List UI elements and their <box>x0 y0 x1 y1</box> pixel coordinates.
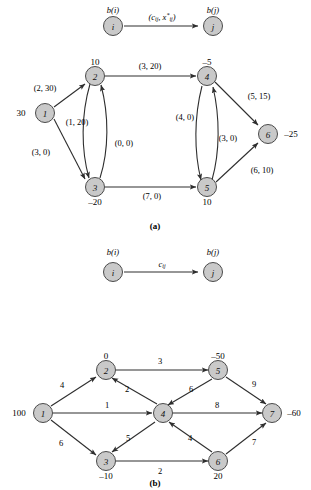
edge-a-5-4 <box>212 87 218 180</box>
node-b-3-label: 3 <box>103 457 109 467</box>
node-b-6-label: 6 <box>216 457 221 467</box>
edge-b-6-7 <box>226 423 266 454</box>
node-a-3-label: 3 <box>92 183 98 193</box>
edge-a-4-6 <box>215 82 258 125</box>
legend-target-node-label-a: j <box>211 22 215 32</box>
panel-a-legend: b(i) i (cij, x*ij) b(j) j <box>104 5 223 36</box>
node-a-4-label: 4 <box>205 72 210 82</box>
legend-edge-label-a: (cij, x*ij) <box>148 12 175 22</box>
edge-label-a-3-5: (7, 0) <box>143 191 162 201</box>
edge-label-b-4-7: 8 <box>215 400 219 410</box>
panel-a-nodes: 30 1 10 2 3 –20 –5 4 5 10 6 –25 <box>17 57 299 207</box>
panel-b-legend: b(i) i cij b(j) j <box>104 247 223 282</box>
edge-b-5-7 <box>226 377 266 404</box>
supply-b-node-5: –50 <box>210 351 225 361</box>
edge-b-4-3 <box>112 422 155 452</box>
edge-label-a-4-5: (4, 0) <box>176 112 195 122</box>
edge-label-a-4-6: (5, 15) <box>248 91 271 101</box>
edge-label-a-2-3: (1, 20) <box>66 117 89 127</box>
edge-label-a-2-4: (3, 20) <box>139 61 162 71</box>
supply-a-node-4: –5 <box>202 57 213 67</box>
edge-a-1-2 <box>54 84 85 107</box>
edge-label-a-5-6: (6, 10) <box>251 165 274 175</box>
edge-label-b-1-3: 6 <box>59 438 63 448</box>
edge-label-b-1-2: 4 <box>60 380 65 390</box>
legend-edge-label-b: cij <box>158 259 165 269</box>
panel-a-edges <box>54 76 258 187</box>
edge-label-b-5-4: 6 <box>189 384 193 394</box>
legend-target-node-label-b: j <box>211 268 215 278</box>
supply-b-node-3: –10 <box>98 471 113 481</box>
panel-a-edge-labels: (2, 30) (3, 0) (1, 20) (0, 0) (3, 20) (7… <box>32 61 274 201</box>
network-flow-figure: b(i) i (cij, x*ij) b(j) j (2, 30) <box>0 0 311 490</box>
legend-target-supply-b: b(j) <box>207 247 219 257</box>
panel-a: b(i) i (cij, x*ij) b(j) j (2, 30) <box>17 5 299 231</box>
legend-target-supply-a: b(j) <box>207 5 219 15</box>
node-a-1-label: 1 <box>43 109 48 119</box>
supply-a-node-5: 10 <box>203 197 213 207</box>
node-b-2-label: 2 <box>104 366 109 376</box>
panel-a-caption: (a) <box>150 221 161 231</box>
node-b-1-label: 1 <box>41 409 46 419</box>
edge-b-1-3 <box>51 420 96 455</box>
edge-label-a-3-2: (0, 0) <box>115 138 134 148</box>
node-a-2-label: 2 <box>93 72 98 82</box>
edge-a-2-3 <box>83 84 90 178</box>
supply-b-node-6: 20 <box>214 471 224 481</box>
legend-source-supply-b: b(i) <box>107 247 119 257</box>
legend-source-supply-a: b(i) <box>107 5 119 15</box>
edge-label-a-5-4: (3, 0) <box>219 133 238 143</box>
supply-a-node-3: –20 <box>87 197 102 207</box>
node-b-7-label: 7 <box>270 409 275 419</box>
edge-label-a-1-2: (2, 30) <box>34 83 57 93</box>
edge-label-b-1-4: 1 <box>105 400 109 410</box>
node-a-5-label: 5 <box>205 183 210 193</box>
supply-a-node-2: 10 <box>91 57 101 67</box>
edge-label-b-6-7: 7 <box>252 437 256 447</box>
node-b-4-label: 4 <box>161 409 166 419</box>
edge-a-1-3 <box>54 119 85 179</box>
edge-label-b-3-6: 2 <box>158 466 162 476</box>
supply-a-node-1: 30 <box>17 108 27 118</box>
edge-b-4-2 <box>112 378 157 404</box>
edge-label-b-2-5: 3 <box>158 356 162 366</box>
supply-b-node-1: 100 <box>12 408 26 418</box>
edge-label-b-5-7: 9 <box>252 379 256 389</box>
edge-label-b-4-2: 2 <box>125 384 129 394</box>
edge-label-a-1-3: (3, 0) <box>32 147 51 157</box>
panel-b: b(i) i cij b(j) j 4 6 <box>12 247 301 488</box>
panel-b-caption: (b) <box>150 478 161 488</box>
supply-b-node-2: 0 <box>104 351 109 361</box>
edge-a-5-6 <box>216 143 258 182</box>
node-b-5-label: 5 <box>216 366 221 376</box>
edge-b-1-2 <box>51 377 96 406</box>
edge-a-3-2 <box>100 85 107 178</box>
node-a-6-label: 6 <box>266 130 271 140</box>
edge-label-b-4-3: 5 <box>126 433 130 443</box>
supply-a-node-6: –25 <box>283 129 298 139</box>
edge-a-4-5 <box>196 86 202 180</box>
supply-b-node-7: –60 <box>286 408 301 418</box>
